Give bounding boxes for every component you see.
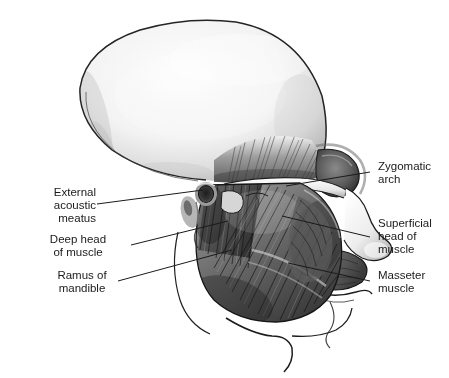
label-external-acoustic-meatus: External acoustic meatus	[6, 186, 96, 225]
illustration-canvas: External acoustic meatus Deep head of mu…	[0, 0, 449, 378]
label-ramus-of-mandible: Ramus of mandible	[46, 269, 118, 295]
label-deep-head-of-muscle: Deep head of muscle	[26, 233, 130, 259]
label-masseter-muscle: Masseter muscle	[378, 269, 448, 295]
label-superficial-head-of-muscle: Superficial head of muscle	[378, 217, 448, 256]
label-zygomatic-arch: Zygomatic arch	[378, 160, 448, 186]
